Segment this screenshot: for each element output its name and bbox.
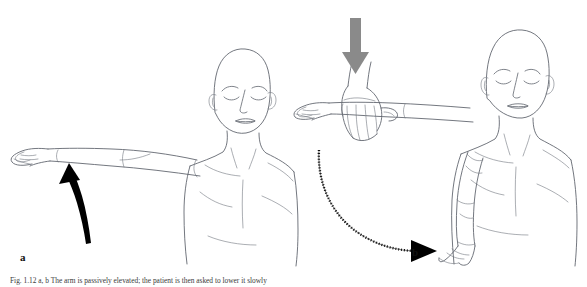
panel-a-illustration (0, 0, 300, 270)
panel-b-drop-test (287, 0, 587, 270)
panel-label-a: a (20, 252, 26, 263)
examiner-hand (342, 62, 398, 141)
black-hatched-arc-arrow (319, 150, 437, 262)
panel-b-illustration (287, 0, 587, 270)
figure-b-torso (452, 116, 577, 266)
gray-down-arrow (342, 18, 369, 74)
figure-b-elevated-arm (294, 102, 473, 122)
panel-a-elevation-start (0, 0, 300, 270)
figure-a-extended-arm (11, 148, 200, 177)
figure-b-hanging-arm (439, 152, 483, 265)
panel-label-b: b (412, 247, 418, 258)
figure-caption: Fig. 1.12 a, b The arm is passively elev… (10, 276, 570, 285)
figure-a-head (209, 49, 276, 133)
figure-a-torso (184, 131, 298, 266)
figure-b-head (481, 30, 554, 118)
figure-container: a b Fig. 1.12 a, b The arm is passively … (0, 0, 587, 287)
black-curved-up-arrow (59, 163, 91, 244)
